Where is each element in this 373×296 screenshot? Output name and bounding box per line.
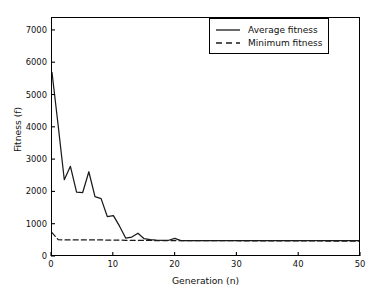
y-tick-label: 1000 [1, 219, 47, 227]
y-tick-label: 5000 [1, 90, 47, 98]
chart-legend: Average fitnessMinimum fitness [209, 18, 329, 54]
y-tick-label: 7000 [1, 26, 47, 34]
data-series-layer [52, 72, 359, 241]
x-tick-label: 20 [169, 260, 180, 268]
legend-line-swatch [215, 38, 241, 48]
x-tick-label: 40 [293, 260, 304, 268]
legend-entry: Minimum fitness [215, 36, 322, 49]
series-line-minimum-fitness [52, 233, 359, 242]
legend-line-swatch [215, 25, 241, 35]
y-tick-label: 6000 [1, 58, 47, 66]
y-axis-tick-labels: 01000200030004000500060007000 [0, 17, 47, 256]
x-tick-label: 10 [107, 260, 118, 268]
legend-label: Minimum fitness [248, 38, 322, 48]
y-tick-label: 4000 [1, 123, 47, 131]
x-axis-title: Generation (n) [51, 275, 360, 286]
legend-entry: Average fitness [215, 23, 322, 36]
y-tick-label: 2000 [1, 187, 47, 195]
x-axis-tick-labels: 01020304050 [51, 260, 360, 272]
x-tick-label: 0 [48, 260, 53, 268]
y-tick-label: 3000 [1, 155, 47, 163]
legend-label: Average fitness [248, 25, 318, 35]
y-axis-title: Fitness (f) [12, 87, 23, 173]
chart-figure: 01000200030004000500060007000 Fitness (f… [0, 0, 373, 296]
series-line-average-fitness [52, 72, 359, 240]
x-tick-label: 50 [355, 260, 366, 268]
x-tick-label: 30 [231, 260, 242, 268]
y-tick-label: 0 [1, 252, 47, 260]
